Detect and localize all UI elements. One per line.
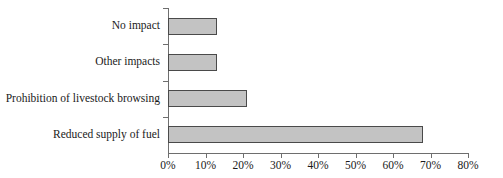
value-tick bbox=[281, 154, 282, 158]
category-tick bbox=[163, 8, 168, 9]
bar-chart: No impactOther impactsProhibition of liv… bbox=[0, 0, 503, 178]
value-tick-label: 20% bbox=[223, 160, 263, 172]
value-tick-label: 10% bbox=[186, 160, 226, 172]
category-tick bbox=[163, 44, 168, 45]
value-tick-label: 30% bbox=[261, 160, 301, 172]
value-tick-label: 50% bbox=[336, 160, 376, 172]
bar bbox=[168, 126, 423, 143]
value-tick bbox=[393, 154, 394, 158]
bar bbox=[168, 54, 217, 71]
value-tick-label: 60% bbox=[373, 160, 413, 172]
bar bbox=[168, 90, 247, 107]
category-label: Other impacts bbox=[0, 56, 163, 68]
value-tick bbox=[206, 154, 207, 158]
value-tick-label: 80% bbox=[448, 160, 488, 172]
value-tick bbox=[243, 154, 244, 158]
category-tick bbox=[163, 117, 168, 118]
value-tick-label: 0% bbox=[148, 160, 188, 172]
value-tick-label: 70% bbox=[411, 160, 451, 172]
value-tick bbox=[431, 154, 432, 158]
value-tick bbox=[318, 154, 319, 158]
category-label: No impact bbox=[0, 20, 163, 32]
category-label: Reduced supply of fuel bbox=[0, 129, 163, 141]
category-tick bbox=[163, 81, 168, 82]
value-tick bbox=[356, 154, 357, 158]
bar bbox=[168, 18, 217, 35]
value-tick bbox=[168, 154, 169, 158]
value-tick bbox=[468, 154, 469, 158]
value-tick-label: 40% bbox=[298, 160, 338, 172]
category-label: Prohibition of livestock browsing bbox=[0, 93, 163, 105]
